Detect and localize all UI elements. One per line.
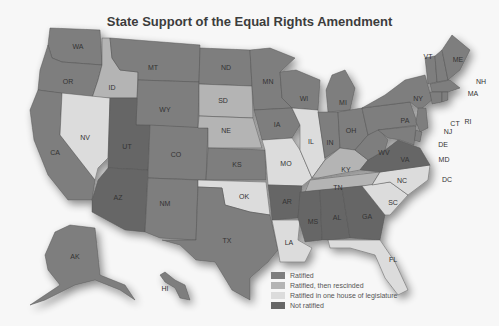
legend-item-not-ratified: Not ratified [271,300,397,310]
label-mi: MI [339,99,347,106]
label-ar: AR [282,198,292,205]
label-ms: MS [308,218,319,225]
legend-label: Ratified in one house of legislature [290,292,397,299]
legend-item-ratified: Ratified [271,270,397,280]
label-tx: TX [223,237,232,244]
label-la: LA [285,239,294,246]
label-ia: IA [274,121,281,128]
legend-label: Ratified [290,272,314,279]
label-nc: NC [397,177,407,184]
label-nm: NM [160,200,171,207]
label-fl: FL [389,256,397,263]
state-nm[interactable] [145,178,198,240]
label-tn: TN [333,184,342,191]
label-nh: NH [476,78,486,85]
us-map: WA OR CA ID NV MT WY UT AZ CO NM ND SD N… [0,0,499,326]
legend: Ratified Ratified, then rescinded Ratifi… [271,270,397,310]
label-wi: WI [300,95,309,102]
state-nj[interactable] [416,108,428,132]
label-al: AL [333,214,342,221]
label-sd: SD [218,97,228,104]
label-hi: HI [162,285,169,292]
label-nd: ND [221,64,231,71]
label-ca: CA [50,149,60,156]
label-ok: OK [239,193,249,200]
state-wy[interactable] [136,80,199,128]
state-ms[interactable] [298,190,322,242]
label-va: VA [401,156,410,163]
label-dc: DC [442,176,452,183]
label-wa: WA [72,43,83,50]
label-wv: WV [378,149,390,156]
legend-label: Ratified, then rescinded [290,282,364,289]
state-ak[interactable] [30,225,135,305]
label-id: ID [109,84,116,91]
label-nv: NV [80,134,90,141]
label-ut: UT [122,143,132,150]
label-md: MD [439,156,450,163]
label-or: OR [63,78,74,85]
swatch-rescinded [271,282,285,289]
label-me: ME [453,56,464,63]
label-sc: SC [388,199,398,206]
label-de: DE [438,141,448,148]
label-ks: KS [232,161,242,168]
swatch-not-ratified [271,302,285,309]
label-ky: KY [341,166,351,173]
label-oh: OH [346,127,357,134]
legend-label: Not ratified [290,302,324,309]
label-ak: AK [70,253,80,260]
state-ct[interactable] [430,92,442,104]
label-il: IL [308,138,314,145]
label-ri: RI [465,118,472,125]
label-az: AZ [114,194,124,201]
label-vt: VT [424,53,434,60]
legend-item-rescinded: Ratified, then rescinded [271,280,397,290]
label-ct: CT [450,120,460,127]
label-nj: NJ [444,128,453,135]
label-ny: NY [413,95,423,102]
label-ga: GA [362,213,372,220]
swatch-ratified [271,272,285,279]
legend-item-one-house: Ratified in one house of legislature [271,290,397,300]
swatch-one-house [271,292,285,299]
label-mo: MO [280,160,292,167]
label-ne: NE [221,127,231,134]
label-in: IN [327,139,334,146]
label-wy: WY [159,106,171,113]
label-mt: MT [148,64,159,71]
label-pa: PA [401,117,410,124]
label-ma: MA [468,90,479,97]
label-co: CO [171,151,182,158]
state-ri[interactable] [442,92,448,102]
label-mn: MN [263,78,274,85]
